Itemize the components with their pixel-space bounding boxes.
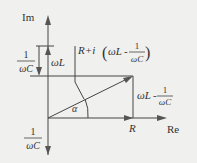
re-axis-arrow-icon <box>157 115 167 121</box>
reactance-numerator: 1 <box>163 85 168 95</box>
cap-bottom-denominator: ωC <box>26 140 40 151</box>
phasor-arrow-icon <box>123 76 133 83</box>
im-axis-arrow-icon <box>45 15 51 25</box>
phasor-diagram: Im Re 1 ωC ωL R+i ( ωL - 1 ωC ) ωL - 1 ω… <box>0 0 197 163</box>
reactance-minus: - <box>153 89 157 101</box>
reactance-denominator: ωC <box>159 97 172 107</box>
inductive-label: ωL <box>51 56 65 68</box>
impedance-close-paren: ) <box>145 44 150 62</box>
inductive-arrow-icon <box>45 46 51 55</box>
impedance-wl: ωL <box>108 45 122 57</box>
down-arrow-icon <box>45 146 51 155</box>
resistance-label: R <box>128 122 136 134</box>
impedance-phasor <box>48 79 127 118</box>
re-arrow-at-R-icon <box>124 115 133 121</box>
impedance-numerator: 1 <box>135 41 140 51</box>
angle-label: α <box>72 103 78 114</box>
re-axis-label: Re <box>167 123 179 135</box>
cap-bottom-numerator: 1 <box>31 126 36 137</box>
capacitive-arrow-icon <box>36 67 42 76</box>
impedance-prefix: R+i <box>77 44 95 56</box>
impedance-open-paren: ( <box>102 44 107 62</box>
reactance-wl: ωL <box>137 89 151 101</box>
cap-top-denominator: ωC <box>19 63 33 74</box>
im-axis-label: Im <box>22 11 35 23</box>
impedance-minus: - <box>124 45 128 57</box>
impedance-denominator: ωC <box>131 54 144 64</box>
angle-arc <box>85 99 88 118</box>
cap-top-numerator: 1 <box>24 49 29 60</box>
